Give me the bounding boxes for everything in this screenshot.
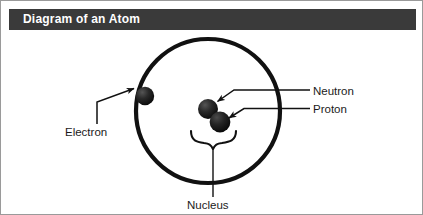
proton-sphere	[210, 112, 231, 133]
label-proton: Proton	[313, 103, 347, 115]
electron-leader-line	[97, 89, 134, 125]
label-nucleus: Nucleus	[187, 199, 229, 211]
diagram-canvas	[1, 1, 423, 215]
atom-diagram-figure: Diagram of an Atom	[0, 0, 423, 215]
nucleus-brace	[191, 131, 236, 149]
electron-sphere	[136, 87, 154, 105]
label-electron: Electron	[65, 126, 107, 138]
proton-leader-line	[229, 109, 310, 119]
label-neutron: Neutron	[313, 85, 354, 97]
neutron-leader-line	[218, 90, 311, 102]
